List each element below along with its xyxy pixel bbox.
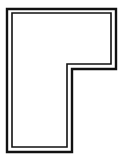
outer-outline [7,9,116,152]
inner-outline [12,13,111,147]
l-shape-diagram [0,0,124,156]
